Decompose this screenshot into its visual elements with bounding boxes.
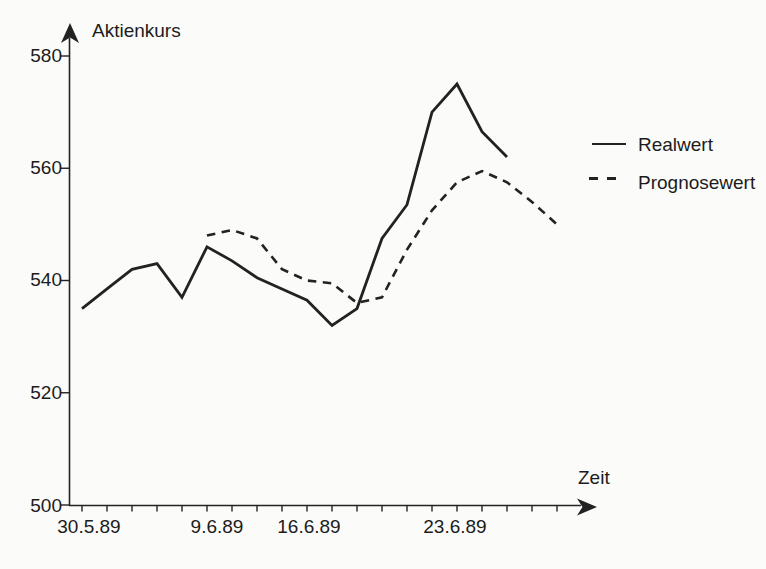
legend-label-prognosewert: Prognosewert — [638, 172, 755, 194]
y-tick-label-540: 540 — [16, 269, 62, 291]
x-tick-label-9-6-89: 9.6.89 — [191, 516, 244, 538]
realwert-line — [82, 84, 507, 325]
chart-canvas — [0, 0, 766, 569]
x-tick-label-30-5-89: 30.5.89 — [57, 516, 120, 538]
x-tick-label-23-6-89: 23.6.89 — [423, 516, 486, 538]
y-tick-label-500: 500 — [16, 495, 62, 517]
y-axis-title: Aktienkurs — [92, 20, 181, 42]
axis-ticks — [61, 56, 557, 512]
y-tick-label-520: 520 — [16, 382, 62, 404]
x-axis-title: Zeit — [578, 467, 610, 489]
y-tick-label-580: 580 — [16, 45, 62, 67]
y-tick-label-560: 560 — [16, 157, 62, 179]
stock-price-chart: Aktienkurs Zeit 580 560 540 520 500 30.5… — [0, 0, 766, 569]
x-axis-arrow-icon — [577, 499, 597, 516]
legend-dashed-line-icon — [589, 177, 621, 180]
legend-solid-line-icon — [592, 143, 626, 145]
x-tick-label-16-6-89: 16.6.89 — [277, 516, 340, 538]
legend-label-realwert: Realwert — [638, 134, 713, 156]
data-series — [82, 84, 557, 325]
